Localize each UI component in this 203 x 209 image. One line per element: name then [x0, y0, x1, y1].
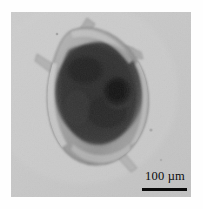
- scale-bar-line: [142, 188, 187, 191]
- scale-bar-label: 100 µm: [141, 170, 189, 183]
- scale-bar: 100 µm: [141, 170, 189, 197]
- photomicrograph-plate: 100 µm: [11, 12, 191, 197]
- figure-page: 100 µm: [0, 0, 203, 209]
